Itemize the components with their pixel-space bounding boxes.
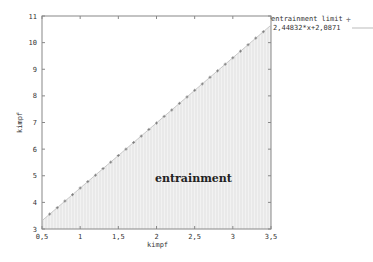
region-label: entrainment <box>155 172 233 185</box>
y-tick-label: 9 <box>33 66 37 74</box>
y-tick-label: 6 <box>33 146 37 154</box>
legend-label-fit-line: 2,44832*x+2,0871 <box>273 24 340 32</box>
y-axis-label: kimpf <box>16 112 24 133</box>
y-tick-label: 4 <box>33 199 37 207</box>
x-tick-label: 2,5 <box>188 233 201 241</box>
legend-plus-icon: + <box>346 15 351 24</box>
y-tick-label: 3 <box>33 226 37 234</box>
y-tick-label: 5 <box>33 172 37 180</box>
y-tick-label: 8 <box>33 92 37 100</box>
x-tick-label: 3 <box>231 233 235 241</box>
x-tick-label: 3,5 <box>265 233 278 241</box>
x-tick-label: 1,5 <box>112 233 125 241</box>
x-axis-label: kimpf <box>147 241 168 249</box>
chart: 0,511,522,533,5 34567891011 entrainment … <box>0 0 373 262</box>
y-tick-label: 11 <box>29 13 37 21</box>
x-tick-label: 1 <box>78 233 82 241</box>
x-tick-label: 2 <box>154 233 158 241</box>
y-tick-label: 7 <box>33 119 37 127</box>
x-tick-label: 0,5 <box>36 233 49 241</box>
legend-label-entrainment-limit: entrainment limit <box>271 15 343 23</box>
y-tick-label: 10 <box>29 39 37 47</box>
